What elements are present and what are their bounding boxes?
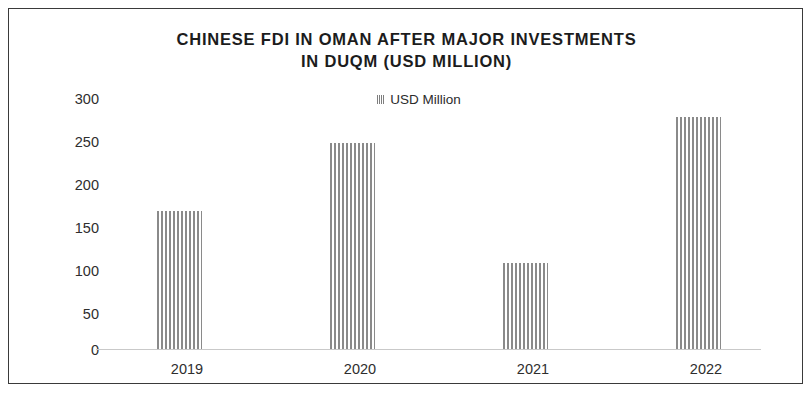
legend-label: USD Million: [390, 92, 461, 107]
bar-2022[interactable]: [676, 117, 721, 349]
x-axis-tick-2020: 2020: [300, 361, 420, 377]
x-axis-tick-2019: 2019: [127, 361, 247, 377]
y-axis-tick-0: 0: [39, 342, 99, 358]
chart-title-line-1: CHINESE FDI IN OMAN AFTER MAJOR INVESTME…: [49, 29, 764, 51]
x-axis-tick-2021: 2021: [473, 361, 593, 377]
y-axis-tick-300: 300: [39, 91, 99, 107]
bar-2020[interactable]: [330, 143, 375, 349]
chart-title-line-2: IN DUQM (USD MILLION): [49, 51, 764, 73]
bar-2021[interactable]: [503, 263, 548, 349]
y-axis-tick-200: 200: [39, 177, 99, 193]
chart-title: CHINESE FDI IN OMAN AFTER MAJOR INVESTME…: [49, 29, 764, 73]
bar-chart: CHINESE FDI IN OMAN AFTER MAJOR INVESTME…: [9, 9, 804, 385]
y-axis-tick-100: 100: [39, 263, 99, 279]
x-axis-tick-2022: 2022: [646, 361, 766, 377]
legend-swatch-icon: [377, 95, 385, 104]
bar-2019[interactable]: [157, 211, 202, 349]
chart-frame: CHINESE FDI IN OMAN AFTER MAJOR INVESTME…: [8, 8, 803, 384]
y-axis-tick-50: 50: [39, 306, 99, 322]
y-axis-tick-150: 150: [39, 220, 99, 236]
chart-legend: USD Million: [309, 92, 529, 107]
x-axis-line: [96, 349, 761, 350]
y-axis-tick-250: 250: [39, 134, 99, 150]
